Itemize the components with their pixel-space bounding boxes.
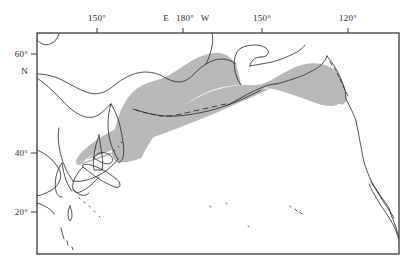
hemisphere-label-west: W [201, 14, 210, 23]
lat-label-40n: 40° [6, 149, 28, 158]
latitude-hemisphere-label: N [6, 67, 28, 76]
longitude-ticks [97, 28, 348, 33]
map-figure: 150° E 180° W 150° 120° 60° N 40° 20° [0, 0, 418, 269]
lat-label-60n: 60° [6, 50, 28, 59]
lon-label-120w: 120° [339, 14, 357, 23]
latitude-ticks [31, 54, 37, 212]
lat-label-20n: 20° [6, 208, 28, 217]
hemisphere-label-east: E [163, 14, 169, 23]
lon-label-150e: 150° [88, 14, 106, 23]
lon-label-150w: 150° [253, 14, 271, 23]
map-canvas [0, 0, 418, 269]
lon-label-180: 180° [176, 14, 194, 23]
